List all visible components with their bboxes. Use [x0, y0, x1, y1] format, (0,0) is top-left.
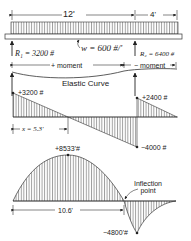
- elastic-curve: [12, 69, 177, 78]
- inflection-point-label: Inflection point: [133, 180, 163, 194]
- r2-label: R₂ = 6400 #: [140, 51, 174, 58]
- negative-moment-label: − moment: [134, 62, 165, 69]
- span-main-label: 12': [63, 10, 75, 19]
- distance-label: 10.6': [58, 207, 73, 214]
- load-label: w = 600 #/': [81, 44, 122, 53]
- diagram-graphics: [0, 0, 191, 241]
- shear-right-positive: +2400 #: [142, 94, 168, 101]
- positive-moment-label: + moment: [51, 62, 82, 69]
- span-overhang-label: 4': [150, 11, 156, 19]
- x-distance-label: x = 5.3': [22, 126, 44, 133]
- distributed-load: [11, 22, 178, 34]
- shear-right-negative: −4000 #: [141, 144, 167, 151]
- moment-diagram: [13, 154, 176, 235]
- moment-min-label: −4800'#: [103, 229, 128, 236]
- moment-max-label: +8533'#: [55, 145, 80, 152]
- beam: [5, 34, 182, 39]
- r1-label: R₁ = 3200 #: [15, 50, 54, 58]
- elastic-curve-label: Elastic Curve: [62, 80, 109, 88]
- beam-diagram: 12' 4' w = 600 #/' R₁ = 3200 # R₂ = 6400…: [0, 0, 191, 241]
- shear-left-value: +3200 #: [18, 89, 44, 96]
